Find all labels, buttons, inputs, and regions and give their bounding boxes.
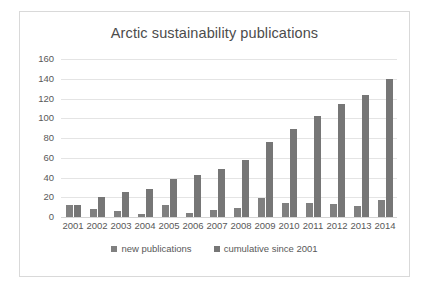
y-axis-tick-label: 160: [38, 54, 54, 64]
bar: [330, 204, 337, 217]
legend-swatch-icon: [111, 246, 117, 252]
x-axis-tick-label: 2013: [349, 220, 373, 231]
bar-group: [61, 59, 85, 217]
bar-group: [373, 59, 397, 217]
bar: [290, 129, 297, 217]
bar: [170, 179, 177, 218]
bar-group: [133, 59, 157, 217]
bar-group: [85, 59, 109, 217]
bar-group: [301, 59, 325, 217]
bar: [378, 200, 385, 217]
chart-legend: new publicationscumulative since 2001: [20, 243, 409, 254]
bar-group: [157, 59, 181, 217]
bar: [74, 205, 81, 217]
chart-container: Arctic sustainability publications 16014…: [19, 11, 410, 277]
y-axis-tick-label: 80: [43, 133, 54, 143]
y-axis-tick-label: 40: [43, 173, 54, 183]
x-axis-tick-label: 2004: [133, 220, 157, 231]
bar: [314, 116, 321, 217]
bar: [162, 205, 169, 217]
bar: [218, 169, 225, 217]
x-axis-tick-label: 2003: [109, 220, 133, 231]
legend-swatch-icon: [214, 246, 220, 252]
bar: [362, 95, 369, 217]
gridline: [61, 217, 397, 218]
bar: [210, 210, 217, 217]
bar-group: [229, 59, 253, 217]
bar-group: [253, 59, 277, 217]
bar: [234, 208, 241, 217]
x-axis-tick-label: 2010: [277, 220, 301, 231]
bar: [266, 142, 273, 217]
bar: [122, 192, 129, 217]
legend-label: cumulative since 2001: [224, 243, 318, 254]
bar: [98, 197, 105, 217]
x-axis-tick-label: 2012: [325, 220, 349, 231]
x-axis-tick-label: 2001: [61, 220, 85, 231]
y-axis-tick-label: 0: [49, 212, 54, 222]
legend-item[interactable]: new publications: [111, 243, 191, 254]
x-axis-tick-label: 2008: [229, 220, 253, 231]
bar: [338, 104, 345, 217]
legend-label: new publications: [121, 243, 191, 254]
bar: [114, 211, 121, 217]
y-axis-tick-label: 100: [38, 114, 54, 124]
x-axis-tick-label: 2011: [301, 220, 325, 231]
bar: [146, 189, 153, 217]
bar: [194, 175, 201, 217]
x-axis: 2001200220032004200520062007200820092010…: [61, 220, 397, 231]
bar: [386, 79, 393, 217]
y-axis-tick-label: 120: [38, 94, 54, 104]
legend-item[interactable]: cumulative since 2001: [214, 243, 318, 254]
bar-group: [181, 59, 205, 217]
bar: [306, 203, 313, 217]
bar-group: [349, 59, 373, 217]
bar: [258, 198, 265, 217]
bar: [242, 160, 249, 217]
y-axis-tick-label: 20: [43, 193, 54, 203]
bar: [282, 203, 289, 217]
x-axis-tick-label: 2007: [205, 220, 229, 231]
y-axis-tick-label: 140: [38, 74, 54, 84]
x-axis-tick-label: 2002: [85, 220, 109, 231]
x-axis-tick-label: 2009: [253, 220, 277, 231]
x-axis-tick-label: 2006: [181, 220, 205, 231]
y-axis: 160140120100806040200: [20, 59, 58, 217]
bar: [186, 213, 193, 217]
bars-layer: [61, 59, 397, 217]
bar: [66, 205, 73, 217]
bar-group: [325, 59, 349, 217]
bar: [138, 214, 145, 217]
chart-title: Arctic sustainability publications: [20, 25, 409, 41]
bar: [90, 209, 97, 217]
bar-group: [277, 59, 301, 217]
y-axis-tick-label: 60: [43, 153, 54, 163]
bar-group: [205, 59, 229, 217]
bar: [354, 206, 361, 217]
bar-group: [109, 59, 133, 217]
x-axis-tick-label: 2005: [157, 220, 181, 231]
x-axis-tick-label: 2014: [373, 220, 397, 231]
